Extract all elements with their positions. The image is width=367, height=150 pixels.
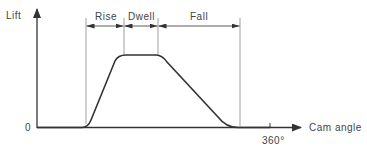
x-tick-360-label: 360°	[262, 135, 285, 146]
lift-curve	[37, 55, 270, 128]
phase-label-fall: Fall	[190, 11, 208, 22]
phase-label-dwell: Dwell	[128, 11, 155, 22]
x-axis-label: Cam angle	[309, 122, 362, 133]
y-axis-label: Lift	[6, 10, 21, 21]
phase-label-rise: Rise	[95, 11, 117, 22]
cam-profile-diagram: Lift Cam angle 0 360° Rise Dwell Fall	[0, 0, 367, 150]
origin-label: 0	[25, 122, 31, 133]
